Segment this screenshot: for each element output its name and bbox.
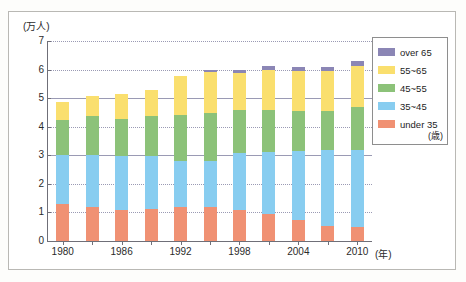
bar-segment [233,153,246,210]
bar-segment [292,220,305,241]
legend-swatch [378,102,395,110]
bar-segment [115,119,128,156]
y-tick-mark [47,155,51,156]
bar [292,67,305,241]
bar-segment [145,90,158,116]
legend-item[interactable]: 35~45 [373,97,447,115]
legend-swatch [378,120,395,128]
x-tick-mark [357,241,358,245]
bar-segment [204,161,217,207]
bar [321,67,334,241]
bar-segment [292,111,305,151]
bar-segment [56,204,69,241]
x-axis-unit-label: (年) [375,246,392,261]
legend-label: over 65 [400,47,432,58]
legend-swatch [378,66,395,74]
y-tick-label: 5 [22,92,44,103]
bar-segment [233,73,246,110]
legend-label: 35~45 [400,101,427,112]
bar-segment [56,120,69,156]
bar-segment [56,102,69,119]
bar-segment [145,116,158,155]
bar-segment [174,161,187,207]
x-tick-mark [63,241,64,245]
y-tick-label: 6 [22,64,44,75]
bar [115,94,128,241]
x-tick-label: 1998 [228,246,250,257]
y-tick-mark [47,41,51,42]
chart-figure: (万人) 01234567 198019861992199820042010 (… [0,0,466,282]
legend-item[interactable]: 45~55 [373,79,447,97]
y-tick-label: 4 [22,121,44,132]
bar-segment [321,226,334,241]
gridline [48,41,372,42]
bar-segment [204,207,217,241]
y-tick-mark [47,184,51,185]
legend-label: under 35 [400,119,438,130]
bar-segment [204,72,217,113]
bar-segment [115,210,128,241]
bar-segment [56,155,69,204]
plot-area [48,41,372,241]
legend-unit-note: (歳) [428,129,443,142]
y-tick-label: 2 [22,178,44,189]
bar-segment [86,155,99,206]
bar-segment [262,70,275,110]
legend-label: 55~65 [400,65,427,76]
legend-item[interactable]: 55~65 [373,61,447,79]
y-tick-mark [47,241,51,242]
y-tick-label: 3 [22,149,44,160]
bar [56,102,69,241]
bar-segment [115,94,128,119]
bar-segment [321,150,334,226]
bar-segment [292,151,305,220]
bar-segment [145,209,158,241]
x-tick-label: 2010 [346,246,368,257]
x-tick-label: 1992 [169,246,191,257]
x-tick-mark [269,241,270,245]
bar [145,90,158,241]
y-axis-ticks: 01234567 [20,41,44,241]
y-axis-unit-label: (万人) [23,18,50,33]
bar [262,66,275,241]
x-tick-mark [122,241,123,245]
bar-segment [86,96,99,117]
x-tick-mark [92,241,93,245]
y-tick-label: 7 [22,35,44,46]
x-tick-label: 2004 [287,246,309,257]
y-tick-mark [47,127,51,128]
bar-segment [351,66,364,107]
x-tick-mark [239,241,240,245]
y-tick-mark [47,98,51,99]
bar-segment [262,110,275,152]
bar-segment [262,152,275,213]
bar [204,70,217,241]
bar-segment [321,111,334,150]
y-tick-mark [47,70,51,71]
bar-segment [86,116,99,155]
x-tick-label: 1980 [52,246,74,257]
legend-label: 45~55 [400,83,427,94]
legend-items: over 6555~6545~5535~45under 35 [373,43,447,133]
bar-segment [321,71,334,111]
bar-segment [351,150,364,227]
bar-segment [262,214,275,241]
bar-segment [86,207,99,241]
x-tick-mark [210,241,211,245]
bar-segment [351,107,364,150]
legend-box: over 6555~6545~5535~45under 35 (歳) [372,37,448,145]
bar-segment [174,207,187,241]
bar-segment [233,110,246,153]
bar [174,76,187,241]
bar-segment [145,156,158,209]
legend-swatch [378,84,395,92]
x-tick-label: 1986 [111,246,133,257]
bar-segment [233,210,246,241]
legend-item[interactable]: over 65 [373,43,447,61]
bar [351,61,364,241]
x-tick-mark [298,241,299,245]
x-tick-mark [328,241,329,245]
bar-segment [174,76,187,115]
bar-segment [115,156,128,210]
y-tick-mark [47,212,51,213]
